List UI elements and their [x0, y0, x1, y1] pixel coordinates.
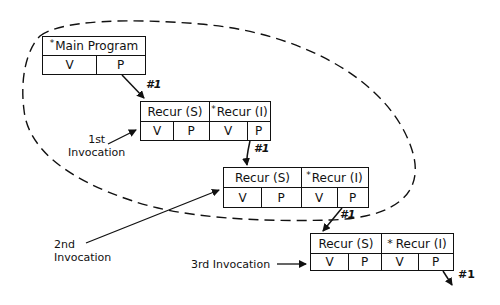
main-program-title: *Main Program [43, 37, 145, 55]
record-left-title: Recur (S) [141, 102, 209, 122]
main-program-record: *Main Program V P [42, 36, 146, 75]
arrow-label-3: #1 [340, 208, 355, 221]
field-p: P [261, 188, 301, 207]
label-3rd-invocation: 3rd Invocation [191, 258, 270, 271]
arrow-main-to-inv1 [122, 75, 144, 98]
field-v: V [209, 122, 247, 140]
activation-record-1: Recur (S) *Recur (I) V P V P [140, 101, 271, 141]
field-p: P [337, 188, 368, 207]
star-marker: * [50, 38, 55, 48]
arrow-label-2: #1 [254, 142, 269, 155]
record-left-title: Recur (S) [311, 234, 381, 254]
field-v: V [141, 122, 173, 140]
field-v: V [43, 56, 96, 74]
field-v: V [224, 188, 261, 207]
arrow-label-1: #1 [146, 78, 161, 91]
arrow-label-4: #1 [458, 268, 475, 281]
field-v: V [301, 188, 337, 207]
pointer-2nd-invocation [86, 190, 219, 243]
record-right-title: *Recur (I) [381, 234, 453, 254]
record-right-title: *Recur (I) [209, 102, 270, 122]
record-right-title: *Recur (I) [301, 168, 368, 188]
star-marker: * [387, 237, 393, 250]
field-p: P [247, 122, 270, 140]
field-p: P [173, 122, 209, 140]
arrow-inv3-out [443, 271, 452, 285]
activation-record-2: Recur (S) *Recur (I) V P V P [223, 167, 369, 208]
field-v: V [311, 254, 348, 270]
record-left-title: Recur (S) [224, 168, 301, 188]
field-p: P [348, 254, 381, 270]
field-v: V [381, 254, 418, 270]
activation-record-3: Recur (S) *Recur (I) V P V P [310, 233, 454, 271]
label-1st-invocation: 1st Invocation [68, 133, 125, 159]
label-2nd-invocation: 2nd Invocation [54, 238, 111, 264]
field-p: P [96, 56, 145, 74]
arrow-inv1-to-inv2 [247, 141, 250, 165]
star-marker: * [306, 170, 311, 180]
field-p: P [418, 254, 453, 270]
star-marker: * [211, 104, 216, 114]
